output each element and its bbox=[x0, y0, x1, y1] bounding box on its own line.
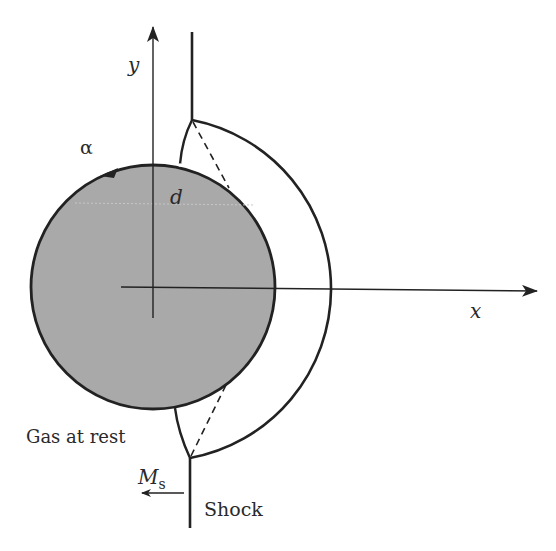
shock-label: Shock bbox=[204, 498, 263, 520]
reflected-shock-bottom bbox=[175, 408, 190, 458]
contact-point-top bbox=[178, 163, 182, 167]
shock-bubble-diagram: y x α d Gas at rest Ms Shock bbox=[0, 0, 556, 551]
x-axis-label: x bbox=[470, 299, 481, 323]
mach-label: Ms bbox=[137, 465, 166, 492]
d-label: d bbox=[170, 185, 183, 209]
reflected-shock-top bbox=[180, 120, 192, 164]
gas-at-rest-label: Gas at rest bbox=[26, 426, 126, 447]
alpha-label: α bbox=[80, 136, 93, 158]
y-axis-label: y bbox=[127, 53, 140, 77]
